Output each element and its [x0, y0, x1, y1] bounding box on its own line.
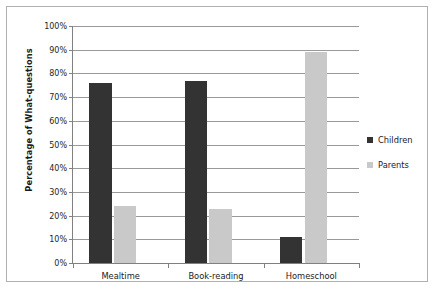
- y-tick-label: 30%: [49, 187, 67, 196]
- y-tick-label: 50%: [49, 140, 67, 149]
- x-tick-mark: [168, 263, 169, 268]
- chart-legend: ChildrenParents: [367, 135, 427, 185]
- y-tick-label: 90%: [49, 45, 67, 54]
- bar-homeschool-children[interactable]: [280, 237, 302, 263]
- chart-container: Percentage of What-questions 0%10%20%30%…: [6, 6, 428, 282]
- legend-swatch-icon: [367, 162, 373, 168]
- y-tick-label: 60%: [49, 116, 67, 125]
- x-axis-label: Homeschool: [264, 271, 359, 281]
- legend-label: Parents: [378, 160, 409, 170]
- x-axis-label: Mealtime: [73, 271, 168, 281]
- bar-group: [168, 26, 263, 263]
- bar-group: [264, 26, 359, 263]
- legend-label: Children: [378, 135, 413, 145]
- bar-mealtime-parents[interactable]: [114, 206, 136, 263]
- y-tick-label: 20%: [49, 211, 67, 220]
- bar-mealtime-children[interactable]: [89, 83, 111, 263]
- x-tick-mark: [264, 263, 265, 268]
- y-tick-label: 10%: [49, 235, 67, 244]
- x-axis-line: [72, 263, 360, 264]
- y-tick-label: 70%: [49, 93, 67, 102]
- y-tick-label: 80%: [49, 69, 67, 78]
- y-tick-label: 0%: [54, 259, 67, 268]
- x-tick-mark: [359, 263, 360, 268]
- x-tick-mark: [73, 263, 74, 268]
- y-axis-title: Percentage of What-questions: [24, 35, 34, 205]
- bar-book-reading-parents[interactable]: [209, 209, 231, 264]
- x-axis-label: Book-reading: [168, 271, 263, 281]
- legend-item-children[interactable]: Children: [367, 135, 427, 145]
- plot-inner: 0%10%20%30%40%50%60%70%80%90%100%: [73, 26, 359, 263]
- legend-item-parents[interactable]: Parents: [367, 160, 427, 170]
- plot-area: 0%10%20%30%40%50%60%70%80%90%100% Mealti…: [73, 26, 359, 263]
- bar-homeschool-parents[interactable]: [305, 52, 327, 263]
- y-tick-label: 100%: [44, 22, 67, 31]
- bars-layer: [73, 26, 359, 263]
- bar-group: [73, 26, 168, 263]
- bar-book-reading-children[interactable]: [185, 81, 207, 263]
- legend-swatch-icon: [367, 137, 373, 143]
- x-axis-labels: MealtimeBook-readingHomeschool: [73, 271, 359, 281]
- y-tick-label: 40%: [49, 164, 67, 173]
